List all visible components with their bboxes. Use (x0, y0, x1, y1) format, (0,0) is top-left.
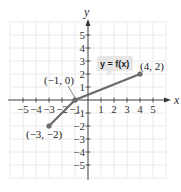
point-label-4-2: (4, 2) (140, 60, 164, 73)
y-axis-label: y (83, 5, 90, 19)
y-axis-arrow-icon (86, 19, 91, 26)
y-tick-label: 5 (80, 29, 86, 41)
x-tick-label: 1 (98, 103, 104, 115)
y-tick-label: −2 (73, 120, 85, 132)
y-tick-label: 1 (80, 81, 86, 93)
data-point (72, 97, 77, 102)
x-tick-label: 3 (124, 103, 130, 115)
function-graph: x y −5−4−3−2−112345−5−4−3−2−112345 y = f… (0, 0, 181, 192)
y-tick-label: −4 (73, 146, 85, 158)
data-point (137, 71, 142, 76)
y-tick-label: 3 (80, 55, 86, 67)
x-axis-arrow-icon (164, 98, 171, 103)
y-tick-label: 2 (80, 68, 86, 80)
y-tick-label: 4 (80, 42, 86, 54)
x-tick-label: −5 (17, 103, 29, 115)
y-tick-label: −1 (73, 107, 85, 119)
x-tick-label: 2 (111, 103, 117, 115)
x-tick-label: −3 (43, 103, 55, 115)
function-label: y = f(x) (100, 59, 129, 69)
point-label-neg3-neg2: (−3, −2) (26, 128, 63, 141)
x-axis-label: x (173, 93, 180, 107)
x-tick-label: −4 (30, 103, 42, 115)
leader-line (68, 86, 75, 98)
y-tick-label: −5 (73, 159, 85, 171)
x-tick-label: 5 (150, 103, 156, 115)
y-tick-label: −3 (73, 133, 85, 145)
point-label-neg1-0: (−1, 0) (44, 74, 74, 87)
x-tick-label: 4 (137, 103, 143, 115)
